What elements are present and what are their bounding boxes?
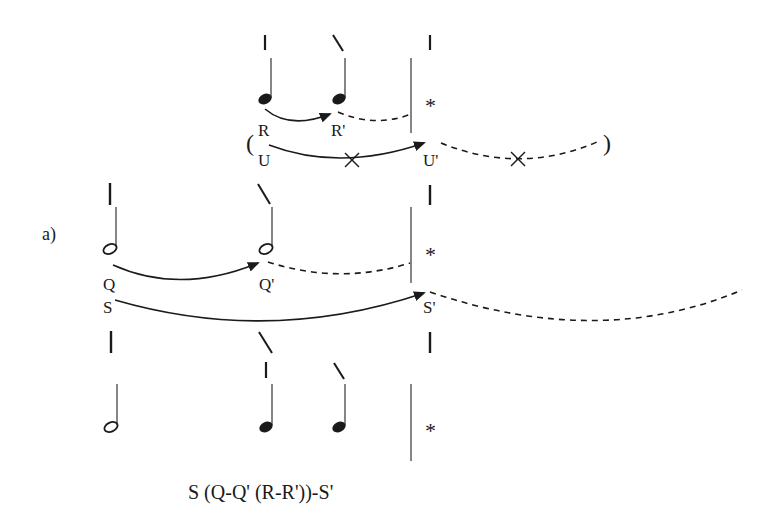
arc-q-prime-dashed — [268, 262, 410, 274]
quarter-note — [258, 384, 275, 434]
asterisk: * — [425, 242, 436, 267]
arc-u-to-u-prime — [269, 143, 424, 158]
quarter-note — [331, 58, 348, 106]
arc-r-to-r-prime — [265, 109, 330, 121]
level-bottom: * — [103, 331, 436, 461]
label-q: Q — [103, 275, 115, 294]
arc-r-prime-dashed — [338, 112, 411, 121]
label-r-prime: R' — [331, 121, 345, 140]
quarter-note — [331, 384, 348, 434]
formula-caption: S (Q-Q' (R-R'))-S' — [188, 481, 333, 504]
label-r: R — [258, 121, 270, 140]
label-q-prime: Q' — [259, 275, 274, 294]
level-middle: * Q Q' S S' — [102, 183, 742, 321]
slash-mark — [259, 332, 272, 353]
label-u: U — [258, 151, 270, 170]
label-s: S — [103, 298, 112, 317]
slash-mark — [333, 35, 343, 51]
arc-q-to-q-prime — [113, 263, 258, 280]
level-top: * R R' ( ) U U' — [246, 35, 611, 170]
part-label: a) — [42, 224, 56, 245]
asterisk: * — [425, 93, 436, 118]
cross-mark-icon — [511, 152, 525, 166]
cross-mark-icon — [345, 153, 359, 167]
label-u-prime: U' — [423, 151, 438, 170]
arc-s-prime-dashed — [430, 290, 742, 321]
quarter-note — [257, 58, 274, 106]
close-paren: ) — [603, 130, 611, 156]
open-paren: ( — [246, 130, 254, 156]
half-note — [103, 384, 119, 434]
label-s-prime: S' — [423, 298, 436, 317]
half-note — [102, 207, 118, 256]
half-note — [258, 207, 274, 256]
slash-mark — [334, 363, 344, 379]
arc-s-to-s-prime — [115, 293, 424, 321]
diagram-canvas: * R R' ( ) U U' a) — [0, 0, 781, 529]
asterisk: * — [425, 418, 436, 443]
slash-mark — [258, 184, 270, 204]
arc-u-prime-dashed — [441, 142, 597, 159]
